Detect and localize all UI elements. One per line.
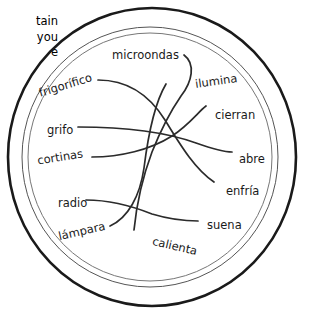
noun-label-microondas[interactable]: microondas — [112, 48, 179, 62]
verb-label-cierran[interactable]: cierran — [215, 108, 255, 122]
connector-frigorifico[interactable] — [98, 80, 214, 182]
verb-label-abre[interactable]: abre — [239, 152, 265, 166]
connector-microondas[interactable] — [134, 55, 191, 230]
verb-label-suena[interactable]: suena — [207, 218, 242, 232]
noun-label-radio[interactable]: radio — [58, 196, 87, 210]
noun-label-grifo[interactable]: grifo — [47, 123, 73, 137]
connector-grifo[interactable] — [78, 127, 232, 152]
verb-label-enfria[interactable]: enfría — [226, 184, 259, 198]
matching-exercise-diagram: tain you e microondasfrigoríficogrifocor… — [0, 0, 310, 310]
